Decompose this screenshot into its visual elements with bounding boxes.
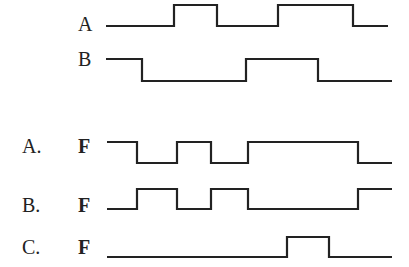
waveform-option-a-f — [107, 142, 392, 163]
option-c-signal: F — [78, 237, 90, 257]
option-a-signal: F — [78, 136, 90, 156]
waveform-input-b — [106, 59, 392, 81]
option-a-label: A. — [22, 136, 41, 156]
timing-diagram — [0, 0, 409, 267]
input-a-label: A — [78, 14, 92, 34]
option-b-label: B. — [22, 195, 40, 215]
waveform-option-b-f — [107, 189, 392, 209]
waveform-input-a — [106, 5, 388, 26]
option-c-label: C. — [22, 237, 40, 257]
input-b-label: B — [78, 49, 91, 69]
option-b-signal: F — [78, 195, 90, 215]
waveform-option-c-f — [107, 237, 392, 257]
